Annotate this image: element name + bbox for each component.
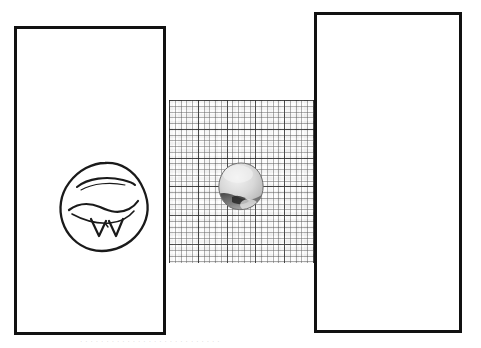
caption-strip: · · · · · · · · · · · · · · · · · · · · … [80, 338, 392, 347]
sketch-panel [14, 26, 166, 335]
photo-panel [314, 12, 462, 333]
object-sketch-drawing [55, 157, 155, 257]
figure-root: · · · · · · · · · · · · · · · · · · · · … [0, 0, 481, 348]
object-small-image [216, 161, 266, 213]
